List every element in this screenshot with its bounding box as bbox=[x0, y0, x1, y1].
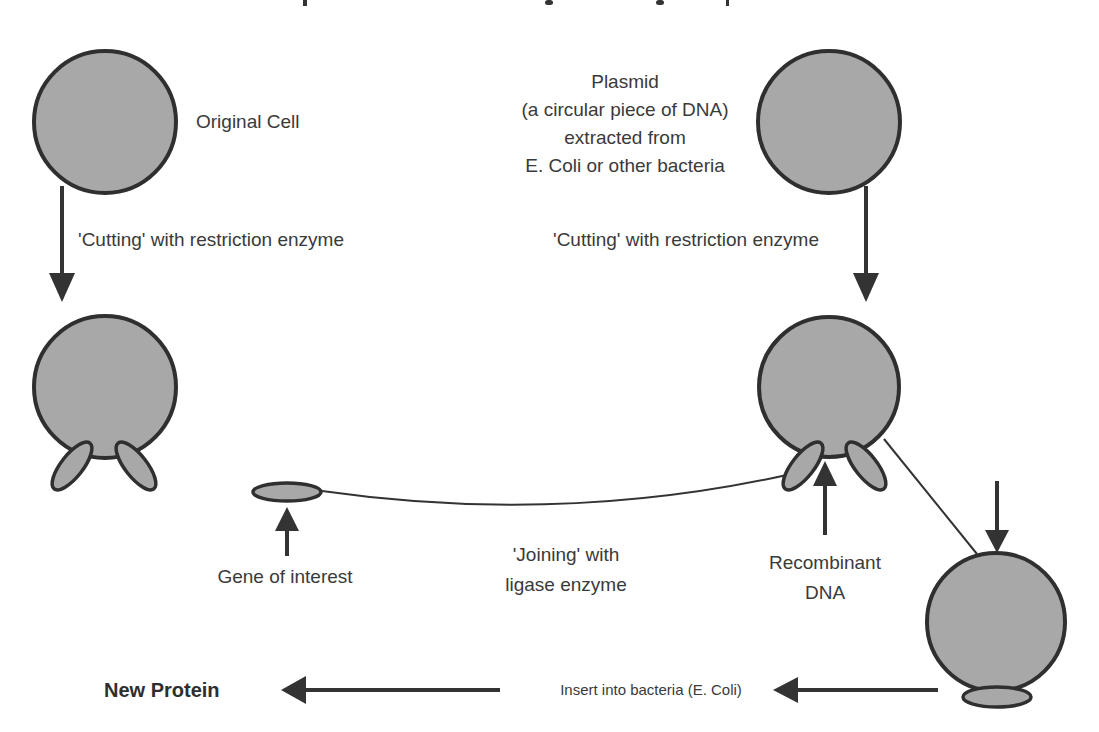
ligation-strand bbox=[322, 475, 787, 505]
arrow-up-gene bbox=[275, 507, 299, 556]
arrow-up-recombinant bbox=[813, 461, 837, 535]
bacterium-fragment bbox=[963, 687, 1031, 707]
cutting-right-label: 'Cutting' with restriction enzyme bbox=[553, 229, 819, 250]
bacterium bbox=[927, 553, 1065, 707]
original-cell-label: Original Cell bbox=[196, 111, 299, 132]
plasmid-label-line-3: extracted from bbox=[564, 127, 685, 148]
gene-of-interest-label: Gene of interest bbox=[217, 566, 353, 587]
cutting-left-label: 'Cutting' with restriction enzyme bbox=[78, 229, 344, 250]
joining-label-line-1: 'Joining' with bbox=[513, 544, 620, 565]
cut-plasmid bbox=[759, 317, 899, 496]
insert-label: Insert into bacteria (E. Coli) bbox=[560, 681, 742, 698]
cut-cell bbox=[34, 316, 176, 496]
arrow-left-insert bbox=[773, 677, 938, 703]
recombinant-label-line-1: Recombinant bbox=[769, 552, 882, 573]
plasmid-label-line-1: Plasmid bbox=[591, 71, 659, 92]
original-cell bbox=[34, 51, 176, 193]
cropped-title-remnant bbox=[303, 0, 729, 6]
plasmid-label-line-2: (a circular piece of DNA) bbox=[522, 99, 729, 120]
arrow-down-left bbox=[49, 186, 75, 302]
recombinant-label-line-2: DNA bbox=[805, 582, 845, 603]
arrow-left-protein bbox=[281, 676, 500, 704]
gene-fragment bbox=[253, 483, 321, 501]
plasmid bbox=[758, 51, 900, 193]
new-protein-label: New Protein bbox=[104, 679, 220, 701]
joining-label-line-2: ligase enzyme bbox=[505, 574, 626, 595]
arrow-down-bacterium bbox=[985, 481, 1009, 553]
arrow-down-right bbox=[853, 186, 879, 302]
transfer-line bbox=[884, 439, 977, 554]
plasmid-label-line-4: E. Coli or other bacteria bbox=[525, 155, 725, 176]
genetic-engineering-diagram: Original Cell 'Cutting' with restriction… bbox=[0, 0, 1099, 732]
